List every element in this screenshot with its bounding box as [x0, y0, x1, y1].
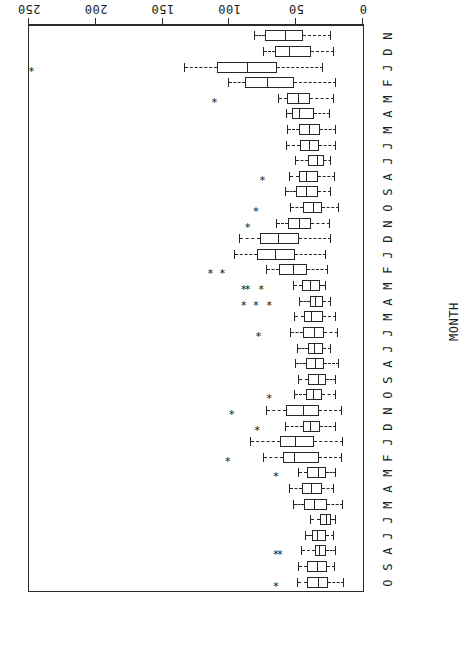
outlier-marker: *	[273, 545, 280, 556]
whisker-cap-high	[234, 250, 235, 259]
median-line	[318, 577, 319, 588]
whisker-high	[299, 472, 307, 473]
whisker-high	[264, 457, 283, 458]
whisker-cap-high	[298, 375, 299, 384]
box-iqr	[304, 499, 327, 510]
whisker-cap-low	[334, 172, 335, 181]
whisker-high	[286, 426, 303, 427]
whisker-cap-low	[342, 500, 343, 509]
median-line	[298, 93, 299, 104]
boxplot	[0, 248, 451, 261]
whisker-low	[322, 394, 337, 395]
boxplot	[0, 513, 451, 526]
whisker-cap-low	[338, 203, 339, 212]
outlier-marker: *	[259, 171, 266, 182]
median-line	[294, 452, 295, 463]
x-tick-label: 50	[276, 2, 316, 16]
boxplot	[0, 107, 451, 120]
box-iqr	[307, 467, 326, 478]
x-tick	[295, 18, 296, 25]
whisker-cap-high	[298, 468, 299, 477]
box-iqr	[312, 530, 325, 541]
median-line	[314, 343, 315, 354]
box-iqr	[299, 171, 318, 182]
whisker-cap-high	[285, 187, 286, 196]
whisker-low	[307, 269, 328, 270]
whisker-low	[323, 316, 336, 317]
whisker-cap-low	[330, 297, 331, 306]
boxplot	[0, 123, 451, 136]
whisker-cap-high	[250, 437, 251, 446]
median-line	[299, 108, 300, 119]
outlier-marker: *	[254, 421, 261, 432]
box-iqr	[292, 108, 313, 119]
whisker-high	[290, 176, 299, 177]
whisker-cap-low	[341, 406, 342, 415]
box-iqr	[315, 545, 326, 556]
whisker-low	[319, 410, 342, 411]
median-line	[317, 561, 318, 572]
whisker-cap-high	[286, 109, 287, 118]
whisker-high	[185, 67, 217, 68]
boxplot: **	[0, 544, 451, 557]
whisker-low	[320, 129, 336, 130]
median-line	[309, 124, 310, 135]
boxplot: *	[0, 61, 451, 74]
whisker-cap-high	[263, 453, 264, 462]
outlier-marker: *	[207, 264, 214, 275]
whisker-high	[290, 488, 302, 489]
whisker-high	[240, 238, 260, 239]
x-tick	[362, 18, 363, 25]
whisker-high	[295, 316, 304, 317]
whisker-cap-low	[333, 531, 334, 540]
whisker-cap-high	[278, 94, 279, 103]
outlier-marker: *	[273, 577, 280, 588]
whisker-high	[251, 441, 280, 442]
whisker-cap-high	[295, 359, 296, 368]
whisker-cap-high	[297, 344, 298, 353]
whisker-cap-high	[294, 390, 295, 399]
box-iqr	[260, 233, 299, 244]
x-tick	[95, 18, 96, 25]
median-line	[315, 358, 316, 369]
whisker-cap-low	[325, 250, 326, 259]
median-line	[306, 186, 307, 197]
whisker-cap-low	[338, 359, 339, 368]
x-tick-label: 250	[9, 2, 49, 16]
whisker-high	[264, 51, 275, 52]
whisker-high	[294, 504, 305, 505]
outlier-marker: *	[258, 280, 265, 291]
whisker-low	[311, 51, 334, 52]
boxplot: *	[0, 217, 451, 230]
boxplot: *	[0, 326, 451, 339]
whisker-high	[267, 269, 279, 270]
whisker-high	[286, 191, 297, 192]
median-line	[313, 389, 314, 400]
boxplot: *	[0, 201, 451, 214]
whisker-cap-low	[335, 125, 336, 134]
median-line	[275, 249, 276, 260]
boxplot	[0, 373, 451, 386]
whisker-cap-low	[335, 390, 336, 399]
boxplot	[0, 232, 451, 245]
whisker-cap-high	[266, 406, 267, 415]
whisker-low	[319, 457, 342, 458]
x-tick	[162, 18, 163, 25]
whisker-cap-low	[342, 437, 343, 446]
whisker-low	[328, 582, 344, 583]
whisker-cap-high	[290, 328, 291, 337]
box-iqr	[306, 389, 322, 400]
median-line	[317, 155, 318, 166]
whisker-low	[327, 504, 343, 505]
whisker-cap-high	[286, 141, 287, 150]
median-line	[311, 483, 312, 494]
whisker-high	[296, 363, 305, 364]
box-iqr	[283, 452, 319, 463]
median-line	[309, 140, 310, 151]
median-line	[310, 280, 311, 291]
boxplot: *	[0, 92, 451, 105]
outlier-marker: *	[224, 452, 231, 463]
whisker-cap-low	[330, 187, 331, 196]
box-iqr	[304, 311, 323, 322]
